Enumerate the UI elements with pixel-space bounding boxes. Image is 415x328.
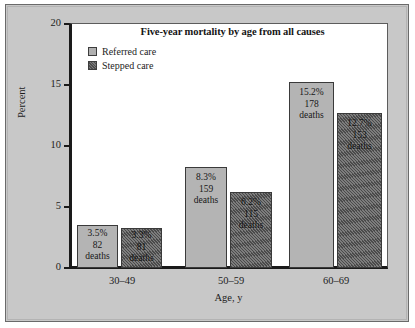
y-axis-title: Percent <box>16 87 27 119</box>
bar-label-stepped-care-50-59-deaths: deaths <box>231 220 271 232</box>
bar-label-referred-care-50-59-count: 159 <box>186 184 226 196</box>
bar-label-stepped-care-50-59-pct: 6.2% <box>231 197 271 209</box>
bar-label-stepped-care-60-69-pct: 12.7% <box>338 118 381 130</box>
bar-label-stepped-care-30-49-pct: 3.3% <box>122 230 161 242</box>
x-axis-title: Age, y <box>69 292 388 303</box>
bar-label-referred-care-30-49-deaths: deaths <box>78 251 117 263</box>
bar-label-stepped-care-30-49-count: 81 <box>122 242 161 254</box>
y-tick-label-5: 5 <box>33 200 61 211</box>
y-tick-label-10: 10 <box>33 139 61 150</box>
bar-label-stepped-care-30-49-deaths: deaths <box>122 253 161 265</box>
bar-label-stepped-care-50-59-count: 115 <box>231 209 271 221</box>
figure-bar-chart: 20 15 10 5 0 Percent Five-year mortality… <box>0 0 415 328</box>
bar-referred-care-30-49: 3.5% 82 deaths <box>77 225 118 268</box>
x-tick-label-50-59: 50–59 <box>186 275 276 286</box>
y-tick-label-20: 20 <box>33 17 61 28</box>
bar-referred-care-60-69: 15.2% 178 deaths <box>289 82 334 268</box>
x-tick-label-60-69: 60–69 <box>291 275 381 286</box>
bar-stepped-care-30-49: 3.3% 81 deaths <box>121 228 162 268</box>
bar-stepped-care-60-69: 12.7% 153 deaths <box>337 113 382 268</box>
y-tick-label-0: 0 <box>33 261 61 272</box>
bar-label-referred-care-60-69-pct: 15.2% <box>290 87 333 99</box>
bar-label-referred-care-50-59-pct: 8.3% <box>186 172 226 184</box>
bar-label-referred-care-30-49-pct: 3.5% <box>78 228 117 240</box>
bar-label-referred-care-30-49-count: 82 <box>78 240 117 252</box>
bar-stepped-care-50-59: 6.2% 115 deaths <box>230 192 272 268</box>
bar-referred-care-50-59: 8.3% 159 deaths <box>185 167 227 268</box>
plot-bars: 3.5% 82 deaths 3.3% 81 deaths 8.3% 159 d… <box>72 24 388 268</box>
bar-label-stepped-care-60-69-count: 153 <box>338 130 381 142</box>
bar-label-referred-care-60-69-count: 178 <box>290 99 333 111</box>
y-tick-label-15: 15 <box>33 78 61 89</box>
bar-label-referred-care-60-69-deaths: deaths <box>290 110 333 122</box>
x-tick-label-30-49: 30–49 <box>77 275 167 286</box>
bar-label-stepped-care-60-69-deaths: deaths <box>338 141 381 153</box>
bar-label-referred-care-50-59-deaths: deaths <box>186 195 226 207</box>
